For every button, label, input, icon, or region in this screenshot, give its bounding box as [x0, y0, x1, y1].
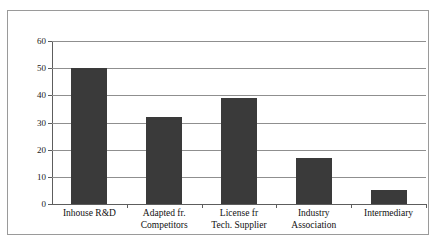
- y-axis-tick-mark: [48, 95, 52, 96]
- y-axis-tick-label: 10: [37, 172, 46, 181]
- x-axis-category-label-line: Adapted fr.: [127, 208, 202, 220]
- bar: [296, 158, 332, 204]
- x-axis-category-label: Adapted fr.Competitors: [127, 208, 202, 231]
- x-axis-tick-mark: [426, 204, 427, 208]
- x-axis-category-label: License frTech. Supplier: [202, 208, 277, 231]
- y-axis-tick-label: 50: [37, 64, 46, 73]
- x-axis-category-label-line: License fr: [202, 208, 277, 220]
- gridline: [52, 95, 426, 96]
- x-axis-category-label-line: Inhouse R&D: [52, 208, 127, 220]
- y-axis-tick-mark: [48, 123, 52, 124]
- y-axis-tick-mark: [48, 41, 52, 42]
- y-axis-tick-mark: [48, 150, 52, 151]
- gridline: [52, 68, 426, 69]
- x-axis-category-label-line: Intermediary: [351, 208, 426, 220]
- bar: [221, 98, 257, 204]
- bar: [146, 117, 182, 204]
- x-axis-line: [52, 204, 426, 205]
- y-axis-tick-mark: [48, 204, 52, 205]
- y-axis-tick-mark: [48, 177, 52, 178]
- y-axis-tick-label: 0: [42, 200, 47, 209]
- x-axis-category-label: Intermediary: [351, 208, 426, 220]
- x-axis-category-label: Inhouse R&D: [52, 208, 127, 220]
- gridline: [52, 41, 426, 42]
- figure-container: 0102030405060 Inhouse R&DAdapted fr.Comp…: [0, 0, 441, 247]
- y-axis-tick-label: 40: [37, 91, 46, 100]
- y-axis-tick-label: 30: [37, 118, 46, 127]
- y-axis-tick-mark: [48, 68, 52, 69]
- x-axis-category-label-line: Competitors: [127, 220, 202, 232]
- x-axis-category-label: IndustryAssociation: [276, 208, 351, 231]
- plot-area: 0102030405060: [52, 41, 426, 204]
- bar: [371, 190, 407, 204]
- x-axis-category-label-line: Industry: [276, 208, 351, 220]
- chart-frame: 0102030405060 Inhouse R&DAdapted fr.Comp…: [7, 10, 429, 235]
- x-axis-category-label-line: Association: [276, 220, 351, 232]
- bar: [71, 68, 107, 204]
- y-axis-tick-label: 20: [37, 145, 46, 154]
- x-axis-category-label-line: Tech. Supplier: [202, 220, 277, 232]
- y-axis-tick-label: 60: [37, 37, 46, 46]
